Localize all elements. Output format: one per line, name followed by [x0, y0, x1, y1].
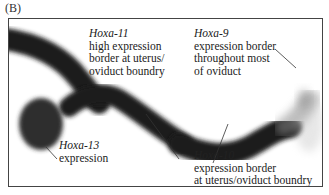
- hoxa10-gene-name: Hoxa-10: [194, 149, 312, 162]
- hoxa10-label: Hoxa-10 expression border at uterus/ovid…: [194, 149, 312, 187]
- hoxa11-line-1: high expression: [89, 40, 165, 53]
- hoxa9-line-1: expression border: [194, 40, 276, 53]
- hoxa9-line-2: throughout most: [194, 52, 276, 65]
- hoxa11-gene-name: Hoxa-11: [89, 27, 165, 40]
- hoxa13-label: Hoxa-13 expression: [59, 139, 108, 164]
- hoxa11-label: Hoxa-11 high expression border at uterus…: [89, 27, 165, 77]
- hoxa10-line-1: expression border: [194, 162, 312, 175]
- hoxa11-line-3: oviduct boundry: [89, 65, 165, 78]
- hoxa13-gene-name: Hoxa-13: [59, 139, 108, 152]
- hoxa9-line-3: of oviduct: [194, 65, 276, 78]
- hoxa9-label: Hoxa-9 expression border throughout most…: [194, 27, 276, 77]
- hoxa9-gene-name: Hoxa-9: [194, 27, 276, 40]
- hoxa9-leader-line: [275, 49, 296, 68]
- figure-frame: Hoxa-11 high expression border at uterus…: [8, 18, 323, 187]
- hoxa10-line-2: at uterus/oviduct boundry: [194, 174, 312, 187]
- hoxa11-line-2: border at uterus/: [89, 52, 165, 65]
- panel-label: (B): [5, 1, 21, 16]
- hoxa13-blob: [19, 98, 63, 150]
- junction-stain: [69, 95, 184, 144]
- hoxa13-leader-line: [46, 147, 57, 159]
- hoxa13-line-1: expression: [59, 152, 108, 165]
